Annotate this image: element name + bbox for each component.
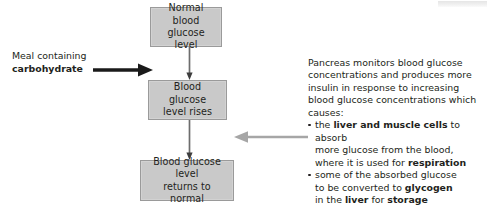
flow-box-normal-blood-glucose-level: Normal blood glucose level [150, 7, 222, 47]
pancreas-note: Pancreas monitors blood glucose concentr… [308, 57, 488, 206]
flow-box-rises-line1: Blood glucose [152, 81, 223, 106]
pancreas-note-line-1: Pancreas monitors blood glucose [308, 57, 488, 69]
meal-label: Meal containing carbohydrate [12, 50, 98, 75]
pancreas-note-line-3: insulin in response to increasing [308, 82, 488, 94]
arrow-left-icon-insulin-feedback [234, 128, 308, 146]
flow-box-rises-line2: level rises [152, 106, 223, 118]
meal-label-carbohydrate: carbohydrate [12, 63, 98, 76]
flow-box-blood-glucose-returns-to-normal: Blood glucose level returns to normal [140, 160, 234, 201]
bullet-dot-icon [308, 174, 311, 177]
scan-artifact [438, 1, 487, 7]
list-item: some of the absorbed glucoseto be conver… [308, 169, 488, 206]
flow-box-normal-line1: Normal blood [154, 2, 218, 27]
flow-box-returns-line2: returns to normal [144, 181, 230, 206]
bullet-dot-icon [308, 124, 311, 127]
list-item: the liver and muscle cells to absorbmore… [308, 119, 488, 169]
meal-label-line1: Meal containing [12, 50, 98, 63]
arrow-down-icon-normal-to-rises [185, 47, 194, 80]
pancreas-note-paragraph: Pancreas monitors blood glucose concentr… [308, 57, 488, 119]
arrow-right-icon-meal-input [93, 60, 153, 80]
pancreas-note-line-4: blood glucose concentrations which [308, 94, 488, 106]
bullet-text: some of the absorbed glucoseto be conver… [315, 169, 488, 206]
pancreas-note-line-2: concentrations and produces more [308, 69, 488, 81]
pancreas-note-bullet-list: the liver and muscle cells to absorbmore… [308, 119, 488, 206]
pancreas-note-line-5: causes: [308, 107, 488, 119]
bullet-text: the liver and muscle cells to absorbmore… [315, 119, 488, 169]
flow-box-blood-glucose-level-rises: Blood glucose level rises [148, 80, 227, 120]
blood-glucose-diagram: Normal blood glucose level Blood glucose… [0, 0, 492, 218]
arrow-down-icon-rises-to-returns [185, 120, 194, 160]
